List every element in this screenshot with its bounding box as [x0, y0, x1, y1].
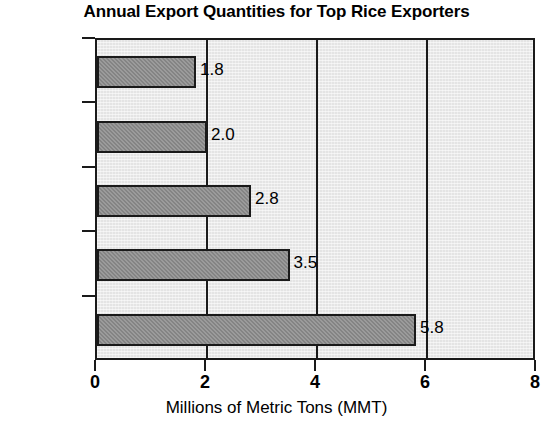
bar [97, 185, 251, 217]
x-axis-tick-label: 6 [405, 372, 445, 392]
y-axis-tick [82, 37, 95, 39]
bar-value-label: 2.8 [255, 190, 279, 207]
bar [97, 314, 416, 346]
x-axis-tick [424, 360, 426, 371]
x-axis-tick-label: 2 [185, 372, 225, 392]
bar-value-label: 1.8 [200, 61, 224, 78]
y-axis-tick [82, 230, 95, 232]
y-axis-tick [82, 295, 95, 297]
y-axis-tick [82, 166, 95, 168]
x-axis-tick-label: 0 [75, 372, 115, 392]
chart-title: Annual Export Quantities for Top Rice Ex… [0, 2, 553, 22]
x-axis-tick [534, 360, 536, 371]
bar-value-label: 2.0 [211, 126, 235, 143]
bar-chart: Annual Export Quantities for Top Rice Ex… [0, 0, 553, 422]
y-axis-tick [82, 101, 95, 103]
x-axis-tick-label: 4 [295, 372, 335, 392]
x-axis-tick [94, 360, 96, 371]
x-axis-tick [204, 360, 206, 371]
x-axis-tick-label: 8 [515, 372, 553, 392]
bar-series [97, 40, 533, 358]
x-axis-tick [314, 360, 316, 371]
bar [97, 121, 207, 153]
bar-value-label: 5.8 [420, 319, 444, 336]
bar [97, 249, 290, 281]
x-axis-title: Millions of Metric Tons (MMT) [0, 398, 553, 417]
plot-area [95, 38, 535, 360]
bar [97, 56, 196, 88]
bar-value-label: 3.5 [294, 254, 318, 271]
